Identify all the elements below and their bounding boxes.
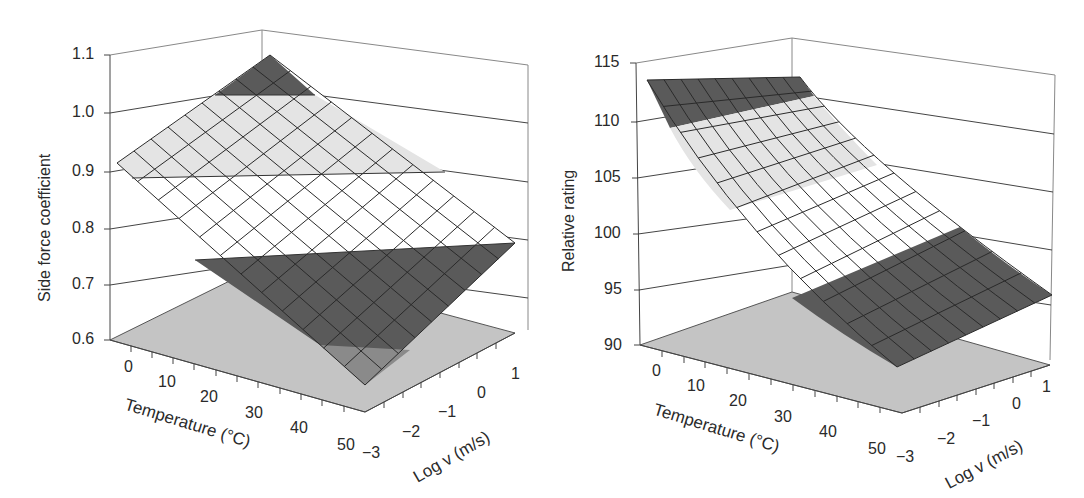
x-tick-0: 0 — [652, 362, 661, 380]
z-tick-1.1: 1.1 — [72, 45, 94, 63]
z-tick-0.9: 0.9 — [72, 162, 94, 180]
z-tick-115: 115 — [594, 53, 620, 71]
z-tick-0.6: 0.6 — [72, 330, 94, 348]
x-tick-50: 50 — [337, 436, 355, 454]
z-tick-0.8: 0.8 — [72, 219, 94, 237]
x-tick-50: 50 — [868, 440, 886, 458]
z-tick-95: 95 — [604, 280, 622, 298]
x-tick-20: 20 — [729, 392, 747, 410]
z-tick-100: 100 — [594, 224, 621, 242]
z-axis-label: Relative rating — [560, 170, 578, 272]
x-tick-40: 40 — [290, 419, 308, 437]
z-axis-label: Side force coefficient — [36, 154, 54, 302]
side-force-surface-plot — [0, 0, 542, 498]
z-tick-105: 105 — [594, 168, 621, 186]
y-tick-neg3: −3 — [362, 444, 380, 462]
z-tick-0.7: 0.7 — [72, 275, 94, 293]
y-tick-neg1: −1 — [972, 412, 990, 430]
y-tick-0: 0 — [477, 384, 486, 402]
y-tick-neg1: −1 — [438, 403, 456, 421]
y-tick-neg3: −3 — [896, 448, 914, 466]
x-tick-10: 10 — [158, 373, 176, 391]
x-tick-30: 30 — [774, 408, 792, 426]
side-force-coefficient-chart: 1.1 1.0 0.9 0.8 0.7 0.6 Side force coeff… — [0, 0, 542, 498]
x-tick-0: 0 — [124, 358, 133, 376]
x-tick-30: 30 — [245, 404, 263, 422]
x-tick-40: 40 — [819, 423, 837, 441]
z-tick-1.0: 1.0 — [72, 103, 94, 121]
x-tick-20: 20 — [200, 388, 218, 406]
y-tick-0: 0 — [1012, 395, 1021, 413]
relative-rating-surface-plot — [542, 0, 1084, 498]
z-tick-90: 90 — [604, 336, 622, 354]
y-tick-1: 1 — [511, 365, 520, 383]
y-tick-1: 1 — [1042, 378, 1051, 396]
y-tick-neg2: −2 — [402, 423, 420, 441]
y-tick-neg2: −2 — [937, 430, 955, 448]
z-tick-110: 110 — [594, 112, 620, 130]
relative-rating-chart: 115 110 105 100 95 90 Relative rating 0 … — [542, 0, 1084, 498]
x-tick-10: 10 — [687, 377, 705, 395]
